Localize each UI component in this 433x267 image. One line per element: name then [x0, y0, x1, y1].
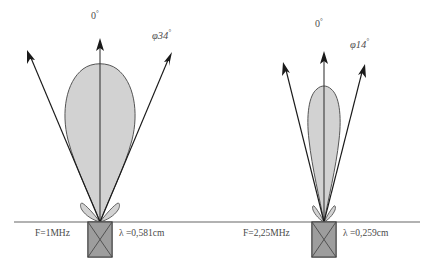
right-divergence-angle-unit: °	[366, 37, 369, 45]
left-ray-left-arrowhead	[27, 50, 35, 64]
left-frequency-label: F=1MHz	[35, 229, 70, 239]
right-ray-right-arrowhead	[358, 64, 366, 78]
right-frequency-label: F=2,25MHz	[243, 229, 290, 239]
left-axis-angle-unit: °	[96, 9, 99, 17]
right-axis-angle-label: 0°	[315, 18, 323, 29]
right-wavelength-label: λ =0,259cm	[343, 229, 388, 239]
right-ray-left-arrowhead	[282, 62, 290, 76]
beam-divergence-figure: 0° φ34° F=1MHz λ =0,581cm 0° φ14° F=2,25…	[0, 0, 433, 267]
left-divergence-angle-value: φ34	[152, 30, 168, 41]
right-axis-angle-unit: °	[320, 17, 323, 25]
right-divergence-angle-value: φ14	[350, 39, 366, 50]
left-wavelength-label: λ =0,581cm	[119, 229, 164, 239]
left-axis-angle-label: 0°	[91, 10, 99, 21]
right-divergence-angle-label: φ14°	[350, 38, 369, 50]
left-ray-right-arrowhead	[164, 52, 172, 66]
left-divergence-angle-label: φ34°	[152, 29, 171, 41]
left-divergence-angle-unit: °	[168, 28, 171, 36]
